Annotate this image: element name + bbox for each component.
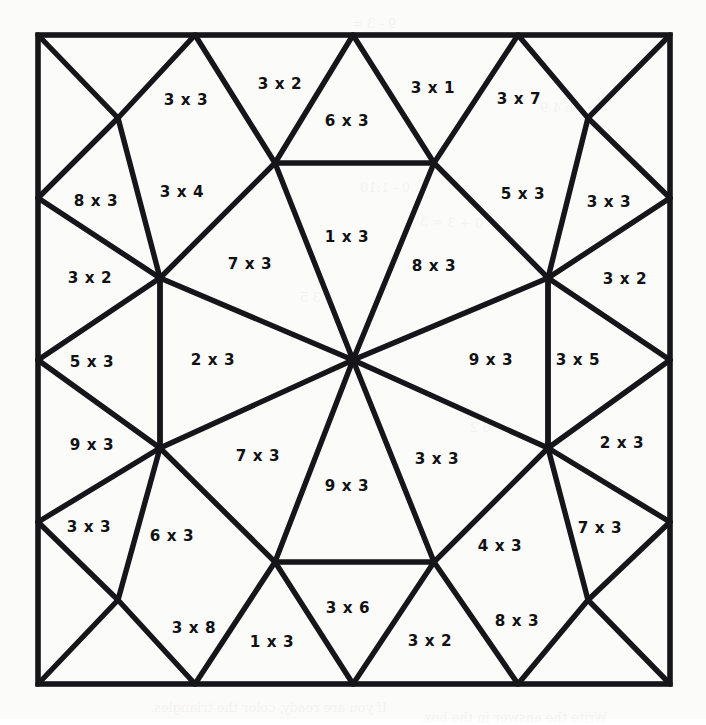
triangle-edge	[588, 35, 670, 118]
triangle-cell-label[interactable]: 7 x 3	[228, 255, 273, 273]
triangle-cell-label[interactable]: 3 x 6	[326, 599, 371, 617]
triangle-edge	[548, 278, 670, 360]
triangle-edge	[275, 35, 353, 163]
triangle-cell-label[interactable]: 8 x 3	[74, 192, 119, 210]
triangle-cell-label[interactable]: 3 x 1	[411, 79, 456, 97]
triangle-cell-label[interactable]: 9 x 3	[469, 351, 514, 369]
triangle-cell-label[interactable]: 3 x 3	[415, 450, 460, 468]
triangle-edge	[118, 600, 195, 684]
triangle-edge	[353, 35, 434, 163]
triangle-cell-label[interactable]: 8 x 3	[495, 612, 540, 630]
triangle-cell-label[interactable]: 9 x 3	[325, 477, 370, 495]
triangle-cell-label[interactable]: 9 x 3	[70, 436, 115, 454]
triangle-cell-label[interactable]: 3 x 3	[164, 91, 209, 109]
triangle-edge	[160, 448, 275, 562]
triangle-edge	[38, 118, 118, 198]
triangle-edge	[353, 562, 434, 684]
triangle-cell-label[interactable]: 3 x 8	[172, 619, 217, 637]
triangle-cell-label[interactable]: 3 x 2	[258, 75, 303, 93]
triangle-edge	[588, 600, 670, 684]
triangle-cell-label[interactable]: 4 x 3	[478, 537, 523, 555]
triangle-cell-label[interactable]: 3 x 7	[497, 90, 542, 108]
triangle-cell-label[interactable]: 5 x 3	[501, 185, 546, 203]
triangle-cell-label[interactable]: 5 x 3	[70, 353, 115, 371]
triangle-cell-label[interactable]: 3 x 3	[67, 518, 112, 536]
triangle-cell-label[interactable]: 7 x 3	[236, 447, 281, 465]
triangle-cell-label[interactable]: 6 x 3	[325, 112, 370, 130]
triangle-cell-label[interactable]: 1 x 3	[250, 633, 295, 651]
triangle-edge	[588, 118, 670, 198]
triangle-cell-label[interactable]: 7 x 3	[578, 519, 623, 537]
triangle-edge	[38, 278, 160, 360]
triangle-edge	[38, 35, 118, 118]
triangle-cell-label[interactable]: 6 x 3	[150, 527, 195, 545]
triangle-edge	[275, 562, 353, 684]
triangle-cell-label[interactable]: 3 x 2	[603, 270, 648, 288]
triangle-cell-label[interactable]: 8 x 3	[412, 257, 457, 275]
triangle-cell-label[interactable]: 1 x 3	[325, 228, 370, 246]
triangle-cell-label[interactable]: 2 x 3	[600, 434, 645, 452]
triangle-cell-label[interactable]: 3 x 4	[160, 183, 205, 201]
triangle-edge	[38, 600, 118, 684]
triangle-cell-label[interactable]: 3 x 5	[556, 351, 601, 369]
triangle-cell-label[interactable]: 3 x 2	[408, 632, 453, 650]
triangle-cell-label[interactable]: 3 x 3	[587, 193, 632, 211]
triangle-cell-label[interactable]: 2 x 3	[191, 351, 236, 369]
triangle-cell-label[interactable]: 3 x 2	[68, 269, 113, 287]
